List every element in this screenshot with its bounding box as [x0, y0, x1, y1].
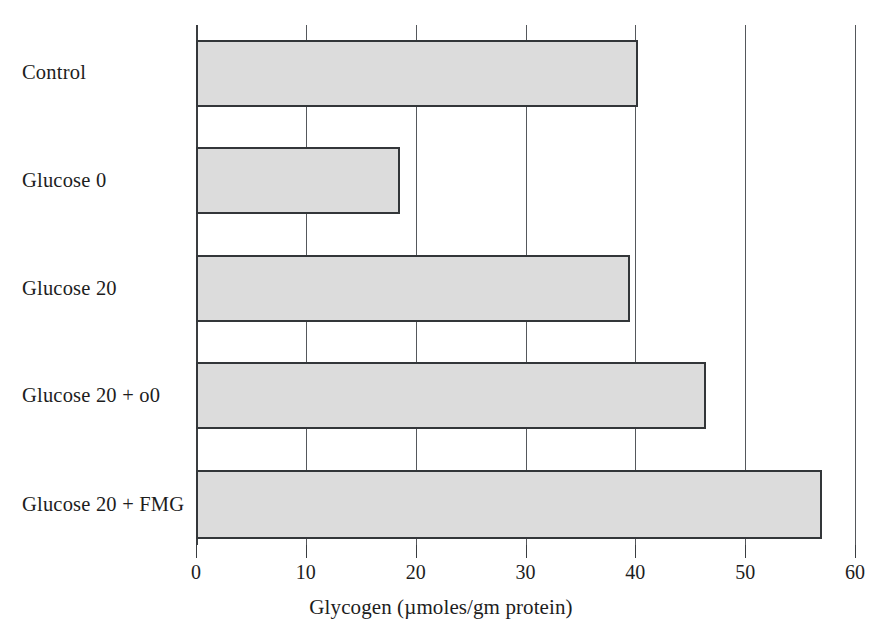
- x-axis-title: Glycogen (µmoles/gm protein): [0, 597, 882, 618]
- x-tick-label-20: 20: [406, 562, 426, 582]
- bar-1: [196, 147, 400, 214]
- gridline-60: [855, 25, 856, 545]
- bar-chart: Control Glucose 0 Glucose 20 Glucose 20 …: [0, 0, 882, 641]
- category-label-control: Control: [22, 62, 86, 83]
- bar-0: [196, 40, 638, 107]
- bar-2: [196, 255, 630, 322]
- x-tick-label-40: 40: [625, 562, 645, 582]
- gridline-50: [745, 25, 746, 545]
- x-tick-10: [306, 545, 307, 558]
- x-tick-20: [416, 545, 417, 558]
- category-label-glucose-20-o0: Glucose 20 + o0: [22, 385, 160, 406]
- x-tick-label-10: 10: [296, 562, 316, 582]
- category-label-glucose-0: Glucose 0: [22, 170, 106, 191]
- plot-area: [196, 25, 855, 545]
- x-tick-label-60: 60: [845, 562, 865, 582]
- x-tick-30: [526, 545, 527, 558]
- bar-3: [196, 362, 706, 429]
- bar-4: [196, 470, 822, 539]
- x-tick-label-30: 30: [516, 562, 536, 582]
- x-tick-60: [855, 545, 856, 558]
- x-tick-label-50: 50: [735, 562, 755, 582]
- x-tick-label-0: 0: [191, 562, 201, 582]
- category-label-glucose-20-fmg: Glucose 20 + FMG: [22, 494, 184, 515]
- x-tick-50: [745, 545, 746, 558]
- category-label-glucose-20: Glucose 20: [22, 278, 117, 299]
- x-tick-40: [635, 545, 636, 558]
- x-tick-0: [196, 545, 197, 558]
